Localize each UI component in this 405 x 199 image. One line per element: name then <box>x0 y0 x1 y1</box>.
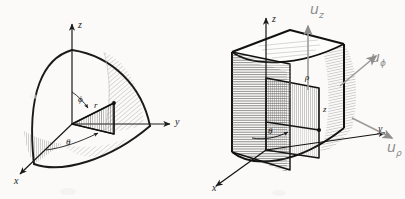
spherical-z-axis-label: z <box>78 20 82 30</box>
diagram-canvas <box>0 0 405 199</box>
unit-vector-rho-label: uρ <box>387 140 402 158</box>
spherical-coordinate-octant <box>20 24 170 174</box>
cylindrical-z-axis-label: z <box>272 14 276 24</box>
unit-vector-phi-base: u <box>371 49 380 65</box>
unit-vector-phi-sub: ϕ <box>380 58 386 68</box>
spherical-r-label: r <box>94 101 98 110</box>
cylindrical-z-height-label: z <box>323 105 327 114</box>
sphere-inner-shading-left <box>24 131 62 164</box>
unit-vector-z-sub: z <box>319 10 324 20</box>
cylindrical-rho-label: ρ <box>305 73 309 82</box>
cylindrical-volume-element <box>266 78 319 130</box>
spherical-y-axis-label: y <box>175 117 179 127</box>
unit-vector-phi-label: uϕ <box>371 50 386 68</box>
cylindrical-y-axis-label: y <box>378 124 382 134</box>
cylindrical-x-axis-label: x <box>212 183 216 193</box>
cylindrical-coordinate-wedge <box>216 18 392 186</box>
scan-smudge <box>272 190 286 196</box>
spherical-theta-label: θ <box>66 138 70 147</box>
cylindrical-element-corner-dot <box>317 128 321 132</box>
spherical-phi-label: ϕ <box>78 95 83 104</box>
spherical-x-axis-label: x <box>14 176 18 186</box>
unit-vector-z-label: uz <box>310 2 324 20</box>
unit-vector-rho-sub: ρ <box>396 148 402 158</box>
unit-vector-z-base: u <box>310 1 319 17</box>
unit-vector-rho-base: u <box>387 139 396 155</box>
scan-smudge <box>30 94 37 99</box>
cylindrical-theta-label: θ <box>268 127 272 136</box>
cylinder-outer-lateral-surface <box>320 44 356 152</box>
scan-smudge <box>60 188 76 195</box>
